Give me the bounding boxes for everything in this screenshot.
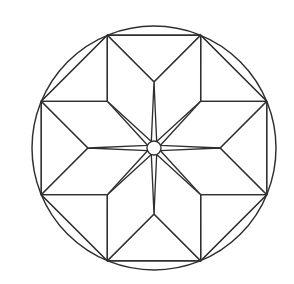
panel-right [201,195,267,261]
figure-root: Eight-pointed star rosette in circle [0,0,294,284]
panel-bottom [41,195,107,261]
center-hub-circle [147,141,161,155]
mandala-diagram: Eight-pointed star rosette in circle [0,0,294,284]
panel-left [41,35,107,101]
panel-top [201,35,267,101]
